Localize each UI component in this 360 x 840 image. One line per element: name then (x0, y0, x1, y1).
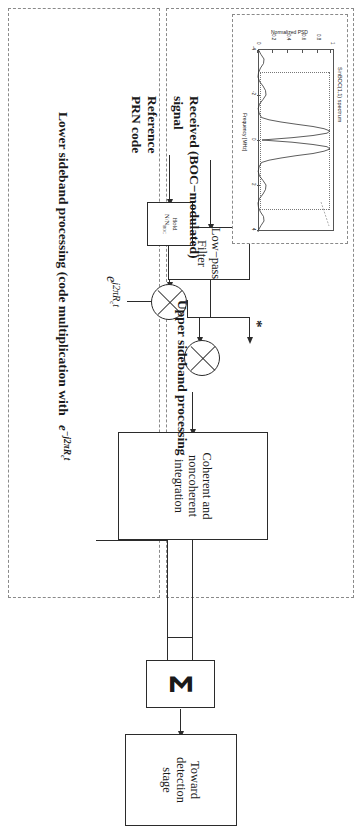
wire-prn-to-hold (169, 155, 170, 201)
label-lower-sideband-processing: Lower sideband processing (code multipli… (55, 112, 72, 460)
ytick-mark (257, 50, 258, 53)
toward-detection-text: Toward detection stage (160, 757, 202, 803)
xtick-mark (257, 95, 260, 96)
toward-detection-line2: detection (174, 757, 188, 803)
chart-ylabel: Normalized PSD (271, 29, 308, 35)
block-toward-detection-stage[interactable]: Toward detection stage (125, 734, 237, 826)
ytick-mark (287, 50, 288, 53)
wire-lpf-into-mixer (199, 317, 200, 339)
ytick-mark (317, 50, 318, 53)
label-reference-prn-code: Reference PRN code (129, 96, 160, 153)
label-upper-sideband-processing: Upper sideband processing (174, 300, 190, 456)
chart-plot-area (258, 49, 334, 231)
xtick-label: -2 (251, 91, 256, 95)
arrow-prnmixer-into-mixer (247, 337, 253, 344)
toward-detection-line1: Toward (188, 757, 202, 803)
label-received-signal: Received (BOC−modulated) signal (171, 96, 202, 259)
xtick-mark (257, 140, 260, 141)
block-coherent-noncoherent-integration[interactable]: Coherent and noncoherent integration (118, 432, 268, 540)
received-signal-line2: signal (171, 96, 187, 259)
xtick-mark (257, 230, 260, 231)
lower-sideband-formula: e−j2πRct (56, 425, 71, 460)
hold-subscript: BOC (161, 225, 166, 234)
reference-code-line2: PRN code (129, 96, 145, 153)
figure-frame: Toward detection stage Σ Coherent and no… (0, 0, 360, 840)
chart-title: SinBOC(1,1) spectrum (337, 67, 343, 122)
wire-lowergroup-riser (96, 540, 168, 541)
chart-annotation-leader (257, 50, 333, 232)
xtick-label: 4 (251, 228, 256, 231)
ytick-label: 0 (256, 42, 261, 45)
wire-prnmixer-riser (188, 317, 250, 318)
wire-mixer-to-integration (192, 392, 193, 431)
xtick-label: -4 (251, 46, 256, 50)
xtick-label: 2 (251, 183, 256, 186)
ytick-mark (330, 50, 331, 53)
label-conjugate-asterisk: * (248, 320, 265, 328)
block-summer[interactable]: Σ (146, 660, 215, 708)
xtick-mark (257, 185, 260, 186)
ytick-label: 1 (330, 42, 335, 45)
received-signal-line1: Received (BOC−modulated) (186, 96, 202, 259)
wire-received-to-lpf (210, 160, 211, 226)
integration-line1: Coherent and noncoherent (186, 433, 214, 539)
label-carrier-wipeoff-exponential: ej2πRct (103, 276, 122, 307)
wire-sigma-to-detection (180, 709, 181, 733)
chart-xlabel: Frequency [MHz] (242, 113, 248, 151)
lowpass-line1: Low−pass (209, 228, 223, 280)
xtick-label: 0 (251, 138, 256, 141)
wire-lowergroup-to-bus (167, 540, 168, 638)
hold-line2: N/NBOC (161, 214, 171, 234)
sigma-icon: Σ (166, 674, 196, 695)
ytick-mark (302, 50, 303, 53)
wire-lpf-to-junction (210, 280, 211, 317)
toward-detection-line3: stage (160, 757, 174, 803)
inset-spectrum-chart: SinBOC(1,1) spectrum (232, 14, 348, 244)
ytick-label: 0.8 (316, 34, 321, 40)
reference-code-line1: Reference (144, 96, 160, 153)
diagram-canvas: Toward detection stage Σ Coherent and no… (0, 0, 360, 840)
wire-integration-to-bus (192, 540, 193, 638)
ytick-mark (272, 50, 273, 53)
wire-bus-vertical (167, 637, 193, 638)
